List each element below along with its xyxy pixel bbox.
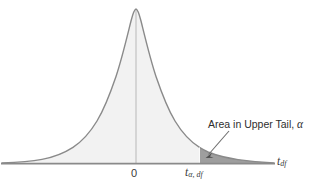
origin-tick-label: 0 (131, 168, 137, 179)
axis-name-subscript: df (280, 159, 286, 168)
critical-value-subscript: α, df (188, 170, 202, 179)
axis-name-label: tdf (277, 156, 286, 168)
critical-value-tick-label: tα, df (185, 167, 203, 179)
annotation-arrow-shaft (209, 131, 230, 155)
distribution-body-area (2, 9, 200, 163)
alpha-symbol: α (297, 118, 303, 130)
upper-tail-annotation-label: Area in Upper Tail, α (208, 119, 303, 131)
distribution-plot (0, 0, 311, 191)
annotation-text: Area in Upper Tail, (208, 118, 297, 130)
t-distribution-figure: Area in Upper Tail, α 0 tα, df tdf (0, 0, 311, 191)
